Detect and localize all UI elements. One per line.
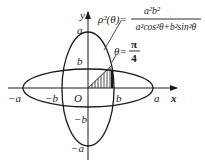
origin-label: O [74, 92, 82, 104]
tick-x-pos-a: a [154, 92, 160, 104]
angle-numerator: π [131, 38, 137, 50]
formula-lhs: ρ²(θ)= [97, 13, 127, 26]
x-axis-label: x [170, 92, 177, 104]
tick-y-neg-a: −a [71, 142, 84, 154]
tick-x-neg-b: −b [45, 92, 58, 104]
polar-formula: ρ²(θ)= a²b² a²cos²θ+b²sin²θ [97, 5, 201, 32]
angle-lhs: θ= [114, 45, 127, 57]
formula-numerator: a²b² [144, 5, 161, 16]
y-axis-label: y [79, 9, 85, 21]
angle-denominator: 4 [131, 52, 137, 64]
tick-x-neg-a: −a [8, 92, 21, 104]
polar-region-diagram: y x O a b −b −a −a −b b a ρ²(θ)= a²b² a²… [0, 0, 205, 167]
tick-y-pos-a: a [77, 24, 83, 36]
tick-y-pos-b: b [77, 55, 83, 67]
angle-label: θ= π 4 [114, 38, 140, 64]
tick-x-pos-b: b [116, 92, 122, 104]
formula-denominator: a²cos²θ+b²sin²θ [136, 22, 197, 32]
hatched-region [92, 60, 110, 88]
tick-y-neg-b: −b [74, 113, 87, 125]
